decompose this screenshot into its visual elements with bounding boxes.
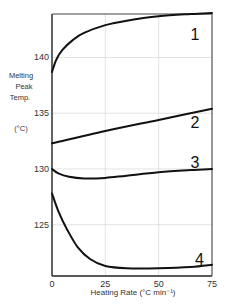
x-tick-label: 0 <box>49 279 54 289</box>
y-axis-label: MeltingPeakTemp.(°C) <box>9 71 33 133</box>
x-tick-label: 75 <box>207 279 217 289</box>
y-tick-label: 135 <box>34 108 49 118</box>
curve-1 <box>52 13 212 72</box>
curve-labels: 1234 <box>191 26 204 268</box>
curves <box>52 13 212 268</box>
y-label-line: Peak <box>15 82 32 91</box>
axes <box>52 14 212 276</box>
x-axis-label: Heating Rate (°C min⁻¹) <box>91 288 176 297</box>
curve-label-2: 2 <box>191 114 200 131</box>
curve-label-3: 3 <box>191 154 200 171</box>
y-label-line: Melting <box>9 71 33 80</box>
curve-label-1: 1 <box>191 26 200 43</box>
curve-4 <box>52 193 212 268</box>
gridlines <box>52 14 212 276</box>
y-tick-label: 125 <box>34 220 49 230</box>
curve-label-4: 4 <box>195 251 204 268</box>
y-label-line: (°C) <box>14 124 28 133</box>
curve-3 <box>52 169 212 179</box>
y-label-line: Temp. <box>10 93 30 102</box>
curve-2 <box>52 109 212 144</box>
y-tick-label: 140 <box>34 52 49 62</box>
y-tick-label: 130 <box>34 164 49 174</box>
melting-temp-chart: 1234 0255075125130135140 MeltingPeakTemp… <box>0 0 226 307</box>
